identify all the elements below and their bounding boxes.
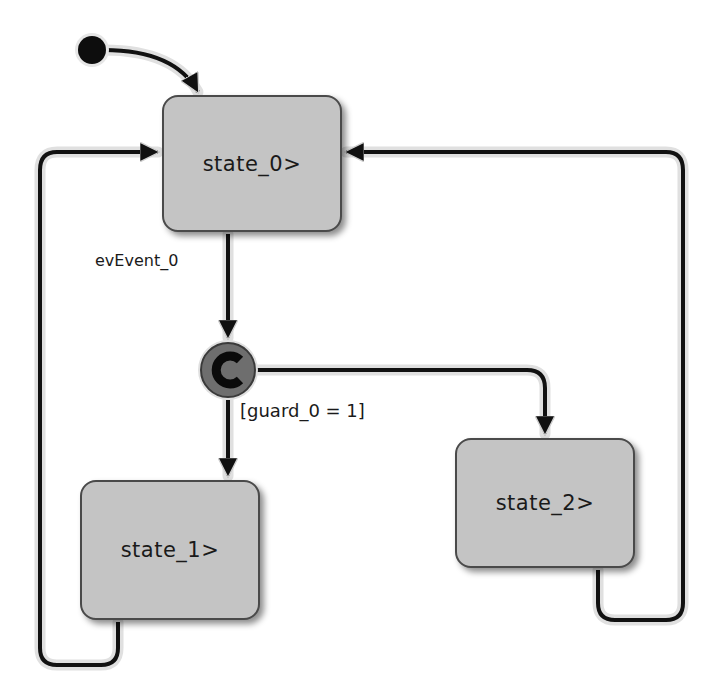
- condition-connector[interactable]: [198, 340, 258, 400]
- state-0[interactable]: state_0>: [162, 95, 342, 232]
- state-0-label: state_0>: [203, 152, 302, 176]
- state-2-label: state_2>: [496, 491, 595, 515]
- state-2[interactable]: state_2>: [455, 438, 635, 568]
- guard-label: [guard_0 = 1]: [240, 400, 365, 421]
- state-1[interactable]: state_1>: [80, 480, 260, 620]
- state-1-label: state_1>: [121, 538, 220, 562]
- event-label: evEvent_0: [95, 251, 178, 270]
